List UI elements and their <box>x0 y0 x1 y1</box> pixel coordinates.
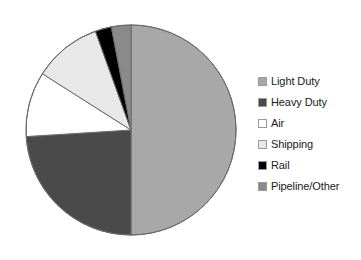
legend-label-shipping: Shipping <box>271 139 313 150</box>
legend-swatch-light-duty <box>258 77 267 86</box>
pie-slice-light-duty[interactable] <box>131 25 236 235</box>
chart-legend: Light Duty Heavy Duty Air Shipping Rail … <box>258 71 361 197</box>
legend-label-light-duty: Light Duty <box>271 76 320 87</box>
legend-item-shipping[interactable]: Shipping <box>258 134 361 155</box>
legend-label-rail: Rail <box>271 160 290 171</box>
legend-swatch-heavy-duty <box>258 98 267 107</box>
legend-item-heavy-duty[interactable]: Heavy Duty <box>258 92 361 113</box>
legend-item-rail[interactable]: Rail <box>258 155 361 176</box>
pie-svg <box>0 0 250 260</box>
pie-plot-area <box>0 0 250 260</box>
legend-swatch-pipeline-other <box>258 182 267 191</box>
legend-swatch-shipping <box>258 140 267 149</box>
legend-item-air[interactable]: Air <box>258 113 361 134</box>
legend-label-heavy-duty: Heavy Duty <box>271 97 327 108</box>
pie-slice-heavy-duty[interactable] <box>26 130 131 235</box>
legend-item-light-duty[interactable]: Light Duty <box>258 71 361 92</box>
pie-slice-group <box>26 25 236 235</box>
legend-swatch-rail <box>258 161 267 170</box>
pie-chart-figure: Light Duty Heavy Duty Air Shipping Rail … <box>0 0 361 260</box>
legend-label-air: Air <box>271 118 284 129</box>
legend-label-pipeline-other: Pipeline/Other <box>271 181 339 192</box>
legend-item-pipeline-other[interactable]: Pipeline/Other <box>258 176 361 197</box>
legend-swatch-air <box>258 119 267 128</box>
